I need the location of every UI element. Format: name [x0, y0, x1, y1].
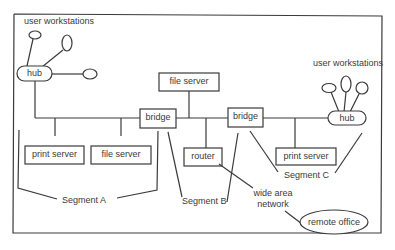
segment-c-label: Segment C — [284, 171, 329, 180]
workstations-label-right: user workstations — [313, 59, 383, 68]
workstation-left-1 — [29, 31, 41, 39]
remote-office-label: remote office — [300, 218, 368, 227]
workstation-left-3 — [83, 69, 97, 79]
wan-label-line1: wide area — [248, 189, 298, 198]
workstation-right-1 — [322, 84, 336, 93]
wan-label-line2: network — [248, 200, 298, 209]
router-label: router — [184, 152, 222, 161]
bridge-left-label: bridge — [140, 113, 176, 122]
file-server-top-label: file server — [159, 77, 219, 86]
print-server-a-label: print server — [25, 150, 84, 159]
workstation-right-3 — [356, 82, 368, 94]
workstations-label-left: user workstations — [24, 17, 94, 26]
file-server-a-label: file server — [91, 150, 151, 159]
workstation-right-2 — [341, 76, 351, 92]
segment-a-label: Segment A — [62, 196, 106, 205]
hub-left-label: hub — [17, 69, 52, 78]
print-server-c-label: print server — [276, 152, 336, 161]
segment-b-label: Segment B — [182, 197, 227, 206]
bridge-right-label: bridge — [228, 112, 263, 121]
diagram-lines — [0, 0, 395, 250]
workstation-left-2 — [62, 35, 72, 51]
hub-right-label: hub — [328, 114, 366, 123]
